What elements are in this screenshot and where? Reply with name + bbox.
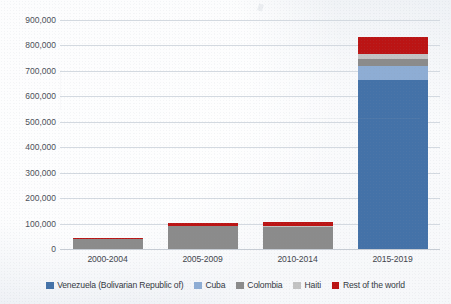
legend-swatch-icon: [46, 282, 54, 290]
y-axis-tick-label: 0: [4, 245, 56, 254]
bar-segment[interactable]: [358, 66, 428, 80]
bar-segment[interactable]: [73, 239, 143, 249]
legend-item[interactable]: Cuba: [194, 281, 225, 290]
y-axis-tick-label: 900,000: [4, 16, 56, 25]
legend-item[interactable]: Haiti: [293, 281, 320, 290]
bar-stack[interactable]: [263, 222, 333, 249]
bar-segment[interactable]: [168, 226, 238, 249]
y-axis-tick-label: 400,000: [4, 143, 56, 152]
plot-area: 0100,000200,000300,000400,000500,000600,…: [60, 20, 440, 249]
legend-swatch-icon: [236, 282, 244, 290]
bar-segment[interactable]: [358, 37, 428, 54]
bar-segment[interactable]: [263, 227, 333, 249]
x-axis-tick-label: 2015-2019: [345, 254, 440, 264]
x-axis-tick-label: 2010-2014: [250, 254, 345, 264]
legend-item-label: Venezuela (Bolivarian Republic of): [57, 281, 183, 290]
chart-page: 0100,000200,000300,000400,000500,000600,…: [0, 0, 451, 304]
legend-item-label: Rest of the world: [343, 281, 405, 290]
legend-item[interactable]: Rest of the world: [332, 281, 405, 290]
gridline: [60, 249, 440, 250]
y-axis-tick-label: 600,000: [4, 92, 56, 101]
chart-legend: Venezuela (Bolivarian Republic of)CubaCo…: [0, 281, 451, 290]
y-axis-tick-label: 500,000: [4, 118, 56, 127]
bar-segment[interactable]: [358, 80, 428, 249]
legend-swatch-icon: [194, 282, 202, 290]
y-axis-tick-label: 300,000: [4, 169, 56, 178]
x-axis-tick-label: 2000-2004: [60, 254, 155, 264]
x-axis-tick-label: 2005-2009: [155, 254, 250, 264]
bar-stack[interactable]: [73, 238, 143, 249]
bar-stack[interactable]: [358, 37, 428, 249]
y-axis-tick-label: 800,000: [4, 41, 56, 50]
legend-swatch-icon: [293, 282, 301, 290]
gridline: [60, 20, 440, 21]
y-axis-tick-label: 200,000: [4, 194, 56, 203]
bar-stack[interactable]: [168, 223, 238, 249]
y-axis-tick-label: 700,000: [4, 67, 56, 76]
legend-item-label: Haiti: [304, 281, 320, 290]
scan-artifact: [257, 3, 264, 11]
legend-item-label: Colombia: [247, 281, 282, 290]
y-axis-tick-label: 100,000: [4, 220, 56, 229]
legend-item[interactable]: Colombia: [236, 281, 282, 290]
legend-item-label: Cuba: [205, 281, 225, 290]
legend-item[interactable]: Venezuela (Bolivarian Republic of): [46, 281, 183, 290]
legend-swatch-icon: [332, 282, 340, 290]
